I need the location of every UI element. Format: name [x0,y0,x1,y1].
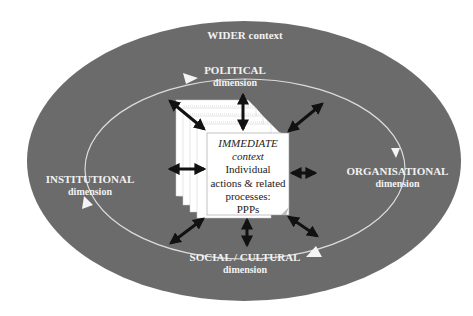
immediate-context-text: IMMEDIATE context Individual actions & r… [207,137,289,216]
political-dimension-label: POLITICAL dimension [195,64,275,88]
organisational-subtitle: dimension [340,178,455,190]
institutional-subtitle: dimension [40,186,140,198]
wider-context-label: WIDER context [200,29,290,42]
social-title: SOCIAL / CULTURAL [190,251,301,263]
center-line-2: actions & related [207,177,289,190]
political-title: POLITICAL [204,64,266,76]
political-subtitle: dimension [195,77,275,89]
organisational-title: ORGANISATIONAL [347,165,449,177]
center-line-4: PPPs [207,203,289,216]
immediate-subtitle: context [207,150,289,163]
immediate-title: IMMEDIATE [207,137,289,150]
context-diagram: WIDER context POLITICAL dimension ORGANI… [0,0,473,316]
social-subtitle: dimension [185,264,305,276]
institutional-dimension-label: INSTITUTIONAL dimension [40,173,140,197]
center-line-3: processes: [207,190,289,203]
organisational-dimension-label: ORGANISATIONAL dimension [340,165,455,189]
institutional-title: INSTITUTIONAL [46,173,135,185]
social-cultural-dimension-label: SOCIAL / CULTURAL dimension [185,251,305,275]
center-line-1: Individual [207,163,289,176]
